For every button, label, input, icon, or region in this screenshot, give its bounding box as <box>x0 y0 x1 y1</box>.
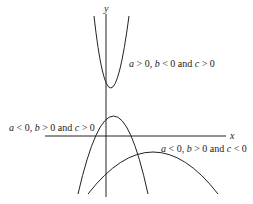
upward-parabola-label: a > 0, b < 0 and c > 0 <box>129 58 215 69</box>
downward-parabola-positive-c-label: a < 0, b > 0 and c > 0 <box>9 122 95 133</box>
x-axis-label: x <box>229 130 235 141</box>
parabola-diagram: x y a > 0, b < 0 and c > 0 a < 0, b > 0 … <box>0 0 253 204</box>
upward-parabola-curve <box>94 16 129 88</box>
downward-parabola-negative-c-label: a < 0, b > 0 and c < 0 <box>161 143 247 154</box>
downward-parabola-negative-c-curve <box>88 152 218 194</box>
y-axis-label: y <box>103 3 109 14</box>
